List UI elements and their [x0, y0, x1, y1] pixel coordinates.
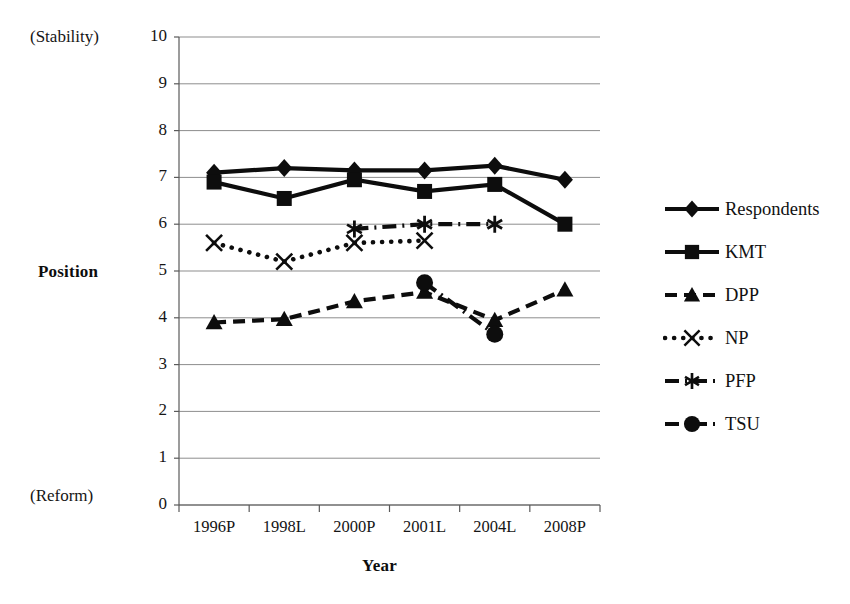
y-tick-label: 2 — [137, 400, 167, 420]
x-tick-label: 2000P — [314, 517, 394, 537]
data-point-marker-triangle — [556, 281, 573, 296]
marker-diamond — [417, 161, 433, 179]
marker-diamond — [684, 200, 699, 217]
series-np — [206, 233, 433, 270]
legend-label: TSU — [725, 411, 760, 437]
x-tick-label: 2004L — [455, 517, 535, 537]
marker-square — [685, 245, 699, 259]
y-tick-label: 9 — [137, 73, 167, 93]
data-point-marker-square — [417, 184, 432, 199]
marker-cross — [684, 330, 699, 345]
axis-note-reform: (Reform) — [30, 486, 93, 506]
series-line — [214, 180, 565, 224]
legend-marker-icon — [663, 411, 721, 437]
data-point-marker-square — [685, 245, 699, 259]
series-dpp — [206, 281, 574, 329]
y-tick-label: 0 — [137, 494, 167, 514]
marker-square — [557, 217, 572, 232]
data-point-marker-circle — [486, 326, 503, 343]
x-tick-label: 2001L — [385, 517, 465, 537]
legend-label: NP — [725, 325, 749, 351]
legend-marker-icon — [663, 325, 721, 351]
plot-area — [0, 0, 850, 604]
legend-swatch-kmt — [663, 239, 721, 265]
legend-swatch-pfp — [663, 368, 721, 394]
marker-square — [417, 184, 432, 199]
data-point-marker-diamond — [417, 161, 433, 179]
marker-square — [207, 175, 222, 190]
data-point-marker-circle — [416, 274, 433, 291]
y-tick-label: 6 — [137, 213, 167, 233]
marker-diamond — [276, 159, 292, 177]
marker-triangle — [346, 293, 363, 308]
series-kmt — [207, 172, 573, 231]
data-point-marker-square — [557, 217, 572, 232]
legend-marker-icon — [663, 282, 721, 308]
marker-circle — [486, 326, 503, 343]
series-line — [425, 283, 495, 334]
legend-swatch-dpp — [663, 282, 721, 308]
data-point-marker-cross — [684, 330, 699, 345]
legend-marker-icon — [663, 196, 721, 222]
y-tick-label: 7 — [137, 166, 167, 186]
legend-label: PFP — [725, 368, 756, 394]
marker-triangle — [556, 281, 573, 296]
marker-circle — [416, 274, 433, 291]
marker-square — [347, 172, 362, 187]
data-point-marker-triangle — [346, 293, 363, 308]
y-tick-label: 1 — [137, 447, 167, 467]
y-tick-label: 8 — [137, 120, 167, 140]
data-point-marker-square — [487, 177, 502, 192]
legend-swatch-tsu — [663, 411, 721, 437]
legend-marker-icon — [663, 239, 721, 265]
marker-diamond — [487, 157, 503, 175]
marker-diamond — [557, 171, 573, 189]
marker-circle — [684, 416, 700, 432]
x-tick-label: 2008P — [525, 517, 605, 537]
legend-label: DPP — [725, 282, 759, 308]
y-tick-label: 3 — [137, 354, 167, 374]
x-axis-title: Year — [362, 556, 397, 576]
legend-swatch-np — [663, 325, 721, 351]
legend-swatch-respondents — [663, 196, 721, 222]
data-point-marker-diamond — [276, 159, 292, 177]
legend-marker-icon — [663, 368, 721, 394]
x-tick-label: 1998L — [244, 517, 324, 537]
marker-cross — [276, 254, 292, 270]
data-point-marker-square — [277, 191, 292, 206]
marker-square — [487, 177, 502, 192]
data-point-marker-diamond — [684, 200, 699, 217]
data-point-marker-diamond — [557, 171, 573, 189]
y-tick-label: 4 — [137, 307, 167, 327]
legend-label: Respondents — [725, 196, 820, 222]
legend-label: KMT — [725, 239, 766, 265]
chart-container: (Stability) (Reform) Position Year 10987… — [0, 0, 850, 604]
series-pfp — [347, 216, 502, 238]
marker-square — [277, 191, 292, 206]
series-line — [214, 241, 425, 262]
data-point-marker-cross — [276, 254, 292, 270]
data-point-marker-diamond — [487, 157, 503, 175]
axis-note-stability: (Stability) — [30, 27, 99, 47]
y-tick-label: 5 — [137, 260, 167, 280]
x-tick-label: 1996P — [174, 517, 254, 537]
marker-cross — [206, 235, 222, 251]
data-point-marker-square — [347, 172, 362, 187]
data-point-marker-cross — [206, 235, 222, 251]
y-axis-title: Position — [38, 262, 98, 282]
data-point-marker-square — [207, 175, 222, 190]
data-point-marker-circle — [684, 416, 700, 432]
series-tsu — [416, 274, 503, 342]
y-tick-label: 10 — [137, 26, 167, 46]
